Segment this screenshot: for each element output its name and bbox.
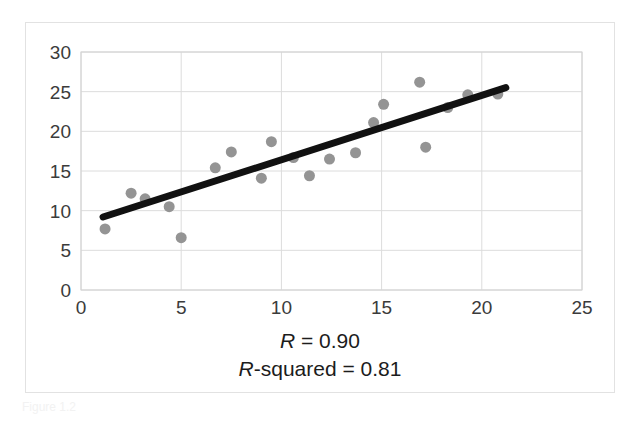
x-tick-label: 25: [571, 297, 592, 318]
trendline-segment: [103, 88, 506, 217]
caption-rsquared-value: -squared = 0.81: [254, 357, 402, 380]
x-tick-label: 5: [176, 297, 187, 318]
x-tick-label: 10: [271, 297, 292, 318]
y-tick-label: 0: [60, 280, 71, 301]
x-tick-label: 20: [471, 297, 492, 318]
y-tick-label: 20: [50, 121, 71, 142]
data-point: [350, 147, 361, 158]
data-point-markers: [100, 77, 504, 243]
data-point: [226, 146, 237, 157]
data-point: [414, 77, 425, 88]
caption-line-rsquared: R-squared = 0.81: [25, 355, 615, 383]
data-point: [304, 170, 315, 181]
caption-rsquared-symbol: R: [239, 357, 254, 380]
data-point: [378, 99, 389, 110]
caption-r-value: = 0.90: [295, 329, 360, 352]
data-point: [324, 154, 335, 165]
data-point: [266, 136, 277, 147]
data-point: [256, 173, 267, 184]
x-axis-tick-labels: 0510152025: [76, 297, 593, 318]
y-axis-tick-labels: 051015202530: [50, 42, 71, 301]
caption-r-symbol: R: [280, 329, 295, 352]
figure-container: 051015202530 0510152025 R = 0.90 R-squar…: [0, 0, 636, 421]
faint-footer-text: Figure 1.2: [22, 400, 222, 414]
caption-line-r: R = 0.90: [25, 327, 615, 355]
y-tick-label: 25: [50, 82, 71, 103]
chart-caption: R = 0.90 R-squared = 0.81: [25, 327, 615, 383]
data-point: [126, 188, 137, 199]
data-point: [420, 142, 431, 153]
data-point: [164, 201, 175, 212]
y-tick-label: 5: [60, 240, 71, 261]
y-tick-label: 10: [50, 201, 71, 222]
data-point: [210, 162, 221, 173]
data-point: [100, 223, 111, 234]
x-tick-label: 15: [371, 297, 392, 318]
x-tick-label: 0: [76, 297, 87, 318]
data-point: [176, 232, 187, 243]
trendline: [103, 88, 506, 217]
y-tick-label: 15: [50, 161, 71, 182]
y-tick-label: 30: [50, 42, 71, 63]
